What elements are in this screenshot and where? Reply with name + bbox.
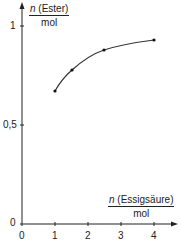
data-curve <box>55 40 154 91</box>
y-axis-label: n (Ester) mol <box>29 3 69 28</box>
y-tick-0: 0 <box>10 217 16 228</box>
x-axis-label: n (Essigsäure) mol <box>108 194 174 219</box>
y-label-rest: (Ester) <box>36 3 69 14</box>
x-tick-1: 1 <box>52 230 58 241</box>
data-point <box>152 38 155 41</box>
x-label-rest: (Essigsäure) <box>115 194 174 205</box>
y-label-unit: mol <box>29 16 69 28</box>
x-tick-4: 4 <box>151 230 157 241</box>
data-point <box>70 68 73 71</box>
x-tick-3: 3 <box>118 230 124 241</box>
x-tick-0: 0 <box>19 230 25 241</box>
y-tick-1: 1 <box>10 20 16 31</box>
x-label-unit: mol <box>108 207 174 219</box>
data-point <box>102 48 105 51</box>
x-axis-arrow-icon <box>171 222 178 227</box>
x-tick-2: 2 <box>85 230 91 241</box>
y-tick-0-5: 0,5 <box>3 119 17 130</box>
data-point <box>53 89 56 92</box>
y-axis-arrow-icon <box>20 2 25 9</box>
